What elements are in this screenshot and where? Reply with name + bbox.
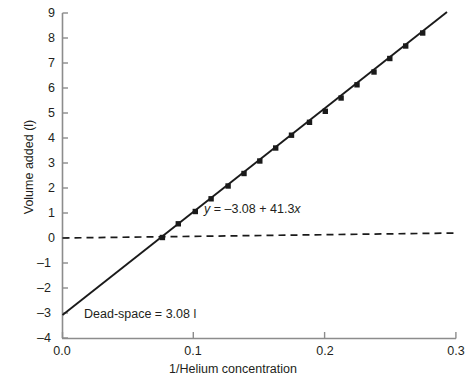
- data-point: [307, 120, 312, 125]
- data-point: [160, 235, 165, 240]
- zero-reference-dashed-line: [63, 233, 459, 238]
- chart-figure: 9 8 7 6 5 4 3 2 1 0 –1 –2 –3 –4 0.0 0.1 …: [0, 0, 466, 383]
- y-tick-label: 6: [29, 81, 55, 95]
- axis-lines: [62, 13, 456, 339]
- x-tick-label: 0.3: [436, 344, 466, 358]
- y-tick-label: 9: [29, 6, 55, 20]
- y-tick-label: –2: [25, 281, 51, 295]
- data-point: [387, 56, 392, 61]
- y-tick-label: –1: [25, 256, 51, 270]
- equation-x-symbol: x: [294, 202, 300, 216]
- data-point: [323, 109, 328, 114]
- data-point: [225, 183, 230, 188]
- y-axis-ticks: [63, 13, 69, 338]
- equation-body: = –3.08 + 41.3: [210, 202, 294, 216]
- x-tick-label: 0.0: [42, 344, 82, 358]
- x-axis-title: 1/Helium concentration: [0, 362, 466, 376]
- data-point: [403, 43, 408, 48]
- data-point: [273, 145, 278, 150]
- y-tick-label: –3: [25, 306, 51, 320]
- data-point: [208, 196, 213, 201]
- y-tick-label: 8: [29, 31, 55, 45]
- regression-equation-annotation: y = –3.08 + 41.3x: [204, 202, 301, 216]
- chart-plot-area: [0, 0, 466, 383]
- y-tick-label: 7: [29, 56, 55, 70]
- x-axis-ticks: [63, 332, 456, 339]
- y-axis-title: Volume added (l): [22, 97, 36, 237]
- x-tick-label: 0.1: [173, 344, 213, 358]
- data-point: [257, 158, 262, 163]
- data-point: [354, 82, 359, 87]
- x-tick-label: 0.2: [305, 344, 345, 358]
- data-point: [289, 133, 294, 138]
- data-point: [338, 95, 343, 100]
- data-point: [420, 30, 425, 35]
- y-tick-label: –4: [25, 331, 51, 345]
- data-point: [193, 209, 198, 214]
- data-point: [241, 171, 246, 176]
- data-point: [371, 69, 376, 74]
- data-point: [176, 221, 181, 226]
- dead-space-annotation: Dead-space = 3.08 l: [84, 307, 196, 321]
